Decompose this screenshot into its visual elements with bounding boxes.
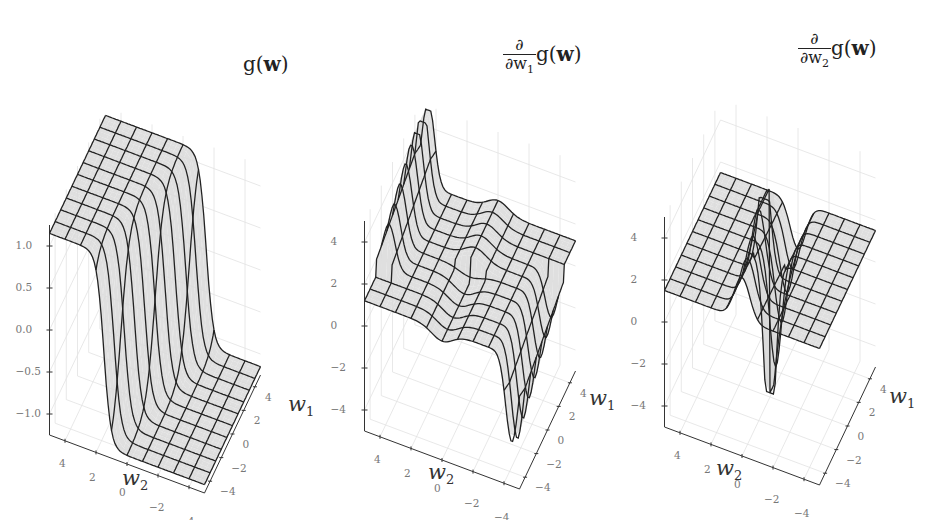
z-tick-label: −4 — [331, 403, 346, 415]
z-tick-label: 0.5 — [16, 281, 33, 293]
axis-label-w1: w1 — [589, 386, 615, 413]
w2-tick-label: 4 — [674, 449, 681, 461]
w2-tick-label: 4 — [59, 457, 66, 469]
w2-tick-label: −2 — [149, 501, 164, 513]
w1-tick-label: 0 — [243, 438, 250, 450]
z-tick-label: −2 — [631, 357, 646, 369]
axis-label-w1: w1 — [889, 384, 915, 411]
w1-tick-label: 2 — [254, 414, 261, 426]
w1-tick-label: 0 — [858, 430, 865, 442]
z-tick-label: −4 — [631, 399, 646, 411]
w2-tick-label: −2 — [764, 493, 779, 505]
w2-tick-label: −4 — [179, 515, 194, 520]
plot-panel-g: g(w) 1.00.50.0−0.5−1.0420−2−4420−2−4 w1 … — [0, 0, 320, 520]
w1-tick-label: −4 — [220, 485, 235, 497]
w1-tick-label: −4 — [835, 477, 850, 489]
surface-plot-g — [0, 0, 320, 520]
z-tick-label: −0.5 — [16, 365, 42, 377]
w1-tick-label: 4 — [580, 387, 587, 399]
w2-tick-label: 2 — [404, 467, 411, 479]
plot-panel-dg-dw1: ∂∂w1g(w) 420−2−4420−2−4420−2−4 w1 w2 — [320, 0, 630, 520]
w1-tick-label: −2 — [231, 462, 246, 474]
w1-tick-label: 2 — [869, 406, 876, 418]
z-tick-label: 4 — [331, 235, 338, 247]
z-tick-label: −2 — [331, 361, 346, 373]
w2-tick-label: −4 — [494, 511, 509, 520]
surface-plot-dg-dw1 — [320, 0, 630, 520]
plot-panel-dg-dw2: ∂∂w2g(w) 420−2−4420−2−4420−2−4 w1 w2 — [630, 0, 947, 520]
w1-tick-label: −2 — [846, 454, 861, 466]
w2-tick-label: −2 — [464, 497, 479, 509]
z-tick-label: 0 — [631, 315, 638, 327]
w2-tick-label: −4 — [794, 507, 809, 519]
surface-plot-dg-dw2 — [630, 0, 947, 520]
w1-tick-label: 4 — [880, 383, 887, 395]
axis-label-w2: w2 — [716, 456, 742, 483]
w1-tick-label: −4 — [535, 481, 550, 493]
axis-label-w2: w2 — [122, 466, 148, 493]
z-tick-label: 0 — [331, 319, 338, 331]
z-tick-label: 4 — [631, 231, 638, 243]
w2-tick-label: 2 — [704, 463, 711, 475]
z-tick-label: 2 — [631, 273, 638, 285]
w1-tick-label: 0 — [558, 434, 565, 446]
z-tick-label: 1.0 — [16, 239, 33, 251]
w1-tick-label: 2 — [569, 410, 576, 422]
w2-tick-label: 4 — [374, 453, 381, 465]
z-tick-label: 2 — [331, 277, 338, 289]
w2-tick-label: 2 — [89, 471, 96, 483]
z-tick-label: −1.0 — [16, 407, 42, 419]
w1-tick-label: −2 — [546, 458, 561, 470]
axis-label-w1: w1 — [288, 392, 314, 419]
w1-tick-label: 4 — [265, 391, 272, 403]
z-tick-label: 0.0 — [16, 323, 33, 335]
axis-label-w2: w2 — [428, 460, 454, 487]
